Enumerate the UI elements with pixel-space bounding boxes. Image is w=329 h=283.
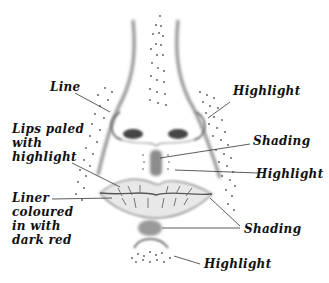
label-lips-paled: Lips paled with highlight bbox=[12, 122, 84, 164]
bridge-highlight-dots bbox=[149, 15, 167, 106]
philtrum bbox=[142, 150, 170, 176]
label-line: Line bbox=[50, 80, 81, 94]
label-shading-nose: Shading bbox=[253, 134, 310, 148]
label-highlight-middle: Highlight bbox=[256, 167, 324, 181]
label-shading-lips: Shading bbox=[244, 222, 301, 236]
chin bbox=[131, 220, 171, 263]
nostrils bbox=[111, 112, 205, 146]
label-highlight-chin: Highlight bbox=[204, 257, 272, 271]
label-liner: Liner coloured in with dark red bbox=[12, 191, 73, 247]
label-highlight-upper: Highlight bbox=[233, 84, 301, 98]
